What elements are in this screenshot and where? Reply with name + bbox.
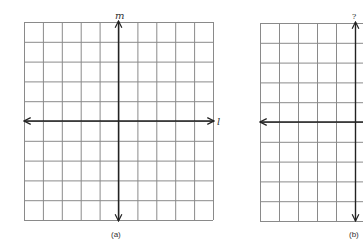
caption-b: (b) <box>349 230 359 239</box>
axis-l-label: l <box>217 116 220 127</box>
panel-b: ? (b) <box>260 12 363 239</box>
axis-vertical-b-label: ? <box>352 12 356 21</box>
panel-a: m l (a) <box>24 10 220 239</box>
axis-m-label: m <box>115 10 124 21</box>
caption-a: (a) <box>111 230 121 239</box>
figure-canvas: m l (a) ? (b) <box>0 0 363 250</box>
